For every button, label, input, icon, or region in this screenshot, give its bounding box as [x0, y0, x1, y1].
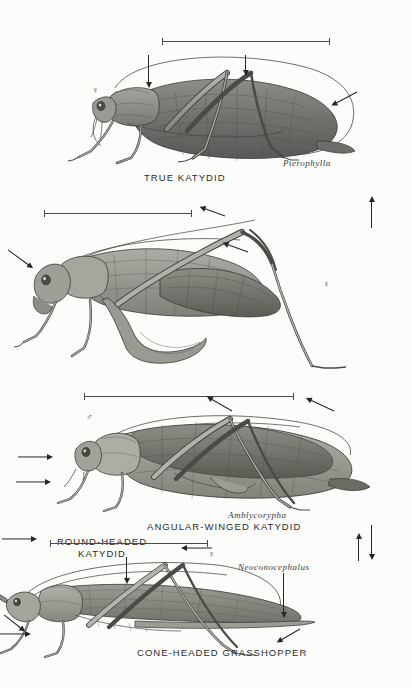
panel-caption: ANGULAR-WINGED KATYDID [147, 521, 301, 532]
specimen-illustration-round-headed-katydid [10, 218, 400, 378]
panel-true-katydid: ♀ [0, 0, 412, 200]
pointer-arrow [283, 573, 287, 619]
genus-label: Neoconocephalus [238, 562, 309, 572]
panel-round-headed-katydid: ♀ [0, 200, 412, 395]
panel-caption: CONE-HEADED GRASSHOPPER [137, 647, 307, 658]
scale-bar [162, 38, 330, 45]
pointer-arrow [18, 453, 54, 461]
genus-label: Pterophylla [283, 158, 331, 168]
pointer-arrow [0, 630, 32, 638]
pointer-arrow [148, 55, 152, 89]
panel-cone-headed-grasshopper: ♀ [0, 535, 412, 688]
scale-bar [84, 393, 294, 400]
illustration-plate: ♀ [0, 0, 412, 688]
scale-bar [44, 210, 192, 217]
scale-bar [50, 540, 208, 547]
panel-angular-winged-katydid: ♂ [0, 395, 412, 535]
pointer-arrow [126, 557, 130, 585]
pointer-arrow [245, 55, 249, 77]
panel-caption: TRUE KATYDID [144, 172, 226, 183]
specimen-illustration-angular-winged-katydid [62, 407, 382, 522]
pointer-arrow [16, 478, 52, 486]
specimen-illustration-true-katydid [55, 45, 375, 170]
